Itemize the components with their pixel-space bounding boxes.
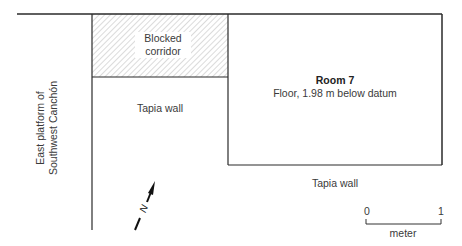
plan-drawing: N xyxy=(0,0,462,246)
blocked-corridor-label: Blocked corridor xyxy=(135,32,191,58)
tapia-wall-upper-label: Tapia wall xyxy=(130,102,190,115)
side-label: East platform of Southwest Canchón xyxy=(34,73,62,183)
room-subtitle: Floor, 1.98 m below datum xyxy=(235,87,435,100)
tapia-wall-lower-label: Tapia wall xyxy=(305,177,365,190)
room-7-label: Room 7 Floor, 1.98 m below datum xyxy=(235,74,435,100)
room-title: Room 7 xyxy=(235,74,435,87)
north-arrow-icon: N xyxy=(135,181,155,230)
scale-bar xyxy=(366,219,441,224)
corridor-label-line1: Blocked xyxy=(138,32,188,45)
scale-end-label: 1 xyxy=(436,205,446,218)
side-label-line2: Southwest Canchón xyxy=(47,73,60,183)
corridor-label-line2: corridor xyxy=(138,45,188,58)
svg-text:N: N xyxy=(137,202,150,214)
side-label-line1: East platform of xyxy=(34,73,47,183)
scale-unit-label: meter xyxy=(383,227,423,240)
scale-start-label: 0 xyxy=(362,205,372,218)
